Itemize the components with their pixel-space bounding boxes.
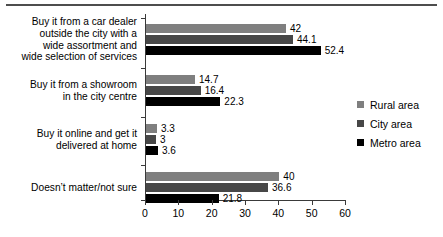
legend-swatch-icon [357,101,364,108]
y-axis-tick [141,18,145,19]
y-axis-tick [141,68,145,69]
bar[interactable] [146,75,195,84]
top-divider [6,4,437,6]
bar[interactable] [146,97,220,106]
category-label-line: in the city centre [0,91,137,103]
x-axis-tick [345,200,346,205]
y-axis-tick [141,165,145,166]
bar-value-label: 21.8 [223,193,242,204]
category-label-line: Buy it from a showroom [0,79,137,91]
x-axis-tick [212,200,213,205]
category-label-line: delivered at home [0,140,137,152]
category-label-line: wide selection of services [0,51,137,63]
x-axis-tick-label: 60 [339,207,351,219]
bar-value-label: 22.3 [224,96,243,107]
legend-item[interactable]: Metro area [357,133,421,152]
bar-value-label: 52.4 [325,45,344,56]
x-axis-tick-label: 20 [206,207,218,219]
bar[interactable] [146,24,286,33]
x-axis-tick-label: 10 [172,207,184,219]
x-axis-tick [178,200,179,205]
bar[interactable] [146,86,201,95]
chart-figure: Buy it from a car dealeroutside the city… [0,0,443,237]
bar-value-label: 14.7 [199,74,218,85]
bar[interactable] [146,183,268,192]
bar[interactable] [146,124,157,133]
category-label: Buy it online and get itdelivered at hom… [0,128,137,151]
category-label-line: Buy it online and get it [0,128,137,140]
bar[interactable] [146,35,293,44]
bar-value-label: 44.1 [297,34,316,45]
bar[interactable] [146,46,321,55]
category-label: Doesn’t matter/not sure [0,182,137,194]
y-axis-tick [141,117,145,118]
x-axis-tick [245,200,246,205]
bar[interactable] [146,194,219,203]
bar[interactable] [146,135,156,144]
x-axis-tick-label: 0 [142,207,148,219]
bar[interactable] [146,172,279,181]
legend-label: Metro area [370,137,421,149]
category-label-line: outside the city with a [0,28,137,40]
legend-item[interactable]: City area [357,114,421,133]
x-axis-tick-label: 40 [272,207,284,219]
x-axis-tick [278,200,279,205]
legend-swatch-icon [357,120,364,127]
bar[interactable] [146,146,158,155]
category-label: Buy it from a showroomin the city centre [0,79,137,102]
bar-value-label: 40 [283,171,294,182]
x-axis-tick-label: 30 [239,207,251,219]
legend-label: City area [370,118,412,130]
legend-swatch-icon [357,139,364,146]
x-axis-tick [312,200,313,205]
legend-label: Rural area [370,99,419,111]
bar-value-label: 16.4 [205,85,224,96]
category-label-line: Doesn’t matter/not sure [0,182,137,194]
bar-value-label: 36.6 [272,182,291,193]
x-axis-tick [145,200,146,205]
bar-value-label: 3.6 [162,145,176,156]
bar-value-label: 3.3 [161,123,175,134]
plot-area: 4244.152.414.716.422.33.333.64036.621.8 … [145,14,345,200]
chart-legend: Rural areaCity areaMetro area [357,95,421,152]
bar-value-label: 3 [160,134,166,145]
category-label-line: wide assortment and [0,40,137,52]
category-label: Buy it from a car dealeroutside the city… [0,16,137,63]
x-axis-tick-label: 50 [306,207,318,219]
category-axis-labels: Buy it from a car dealeroutside the city… [0,14,139,200]
bar-value-label: 42 [290,23,301,34]
legend-item[interactable]: Rural area [357,95,421,114]
category-label-line: Buy it from a car dealer [0,16,137,28]
